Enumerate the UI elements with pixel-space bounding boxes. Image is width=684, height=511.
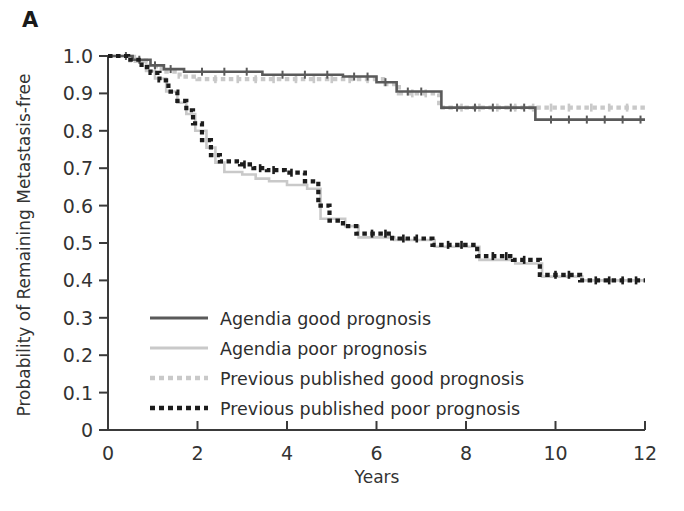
series-layer: [108, 52, 645, 284]
x-tick-label: 0: [102, 442, 114, 464]
figure-panel-a: A Probability of Remaining Metastasis-fr…: [0, 0, 684, 511]
series-line: [108, 56, 645, 120]
x-tick-label: 6: [370, 442, 382, 464]
y-tick-label: 1.0: [63, 45, 93, 67]
x-axis-title-text: Years: [354, 467, 400, 487]
legend-label: Agendia good prognosis: [220, 309, 431, 329]
x-tick-label: 4: [281, 442, 293, 464]
y-axis-ticks: 00.10.20.30.40.50.60.70.80.91.0: [63, 45, 108, 441]
y-axis-title-text: Probability of Remaining Metastasis-free: [14, 74, 34, 417]
series-line: [108, 56, 645, 280]
y-tick-label: 0.5: [63, 232, 93, 254]
y-tick-label: 0.2: [63, 344, 93, 366]
series-line: [108, 56, 645, 280]
chart-legend: Agendia good prognosisAgendia poor progn…: [150, 309, 524, 419]
x-tick-label: 10: [543, 442, 567, 464]
y-tick-label: 0.4: [63, 269, 93, 291]
y-tick-label: 0.7: [63, 157, 93, 179]
x-axis-ticks: 024681012: [102, 421, 657, 464]
y-tick-label: 0.1: [63, 382, 93, 404]
legend-label: Previous published good prognosis: [220, 369, 524, 389]
y-tick-label: 0.8: [63, 120, 93, 142]
y-tick-label: 0.3: [63, 307, 93, 329]
panel-letter: A: [22, 8, 39, 32]
y-tick-label: 0.9: [63, 82, 93, 104]
kaplan-meier-chart: Probability of Remaining Metastasis-free…: [0, 0, 684, 511]
legend-label: Agendia poor prognosis: [220, 339, 427, 359]
legend-label: Previous published poor prognosis: [220, 399, 520, 419]
x-tick-label: 12: [633, 442, 657, 464]
y-tick-label: 0: [81, 419, 93, 441]
x-tick-label: 8: [460, 442, 472, 464]
y-tick-label: 0.6: [63, 195, 93, 217]
x-tick-label: 2: [191, 442, 203, 464]
y-axis-title: Probability of Remaining Metastasis-free: [14, 74, 34, 417]
